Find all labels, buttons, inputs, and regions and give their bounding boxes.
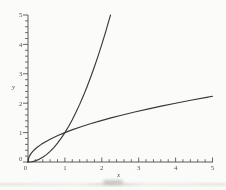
y-axis-label: y [12, 84, 15, 91]
y-tick-label: 0 [19, 155, 23, 162]
series-curve-x-squared [28, 15, 111, 162]
y-tick-label: 4 [19, 41, 23, 48]
x-tick-label: 2 [100, 164, 104, 171]
y-tick-label: 3 [19, 70, 23, 77]
x-tick-label: 3 [137, 164, 141, 171]
x-tick-label: 1 [63, 164, 66, 171]
y-tick-label: 1 [19, 129, 22, 136]
x-tick-label: 4 [174, 164, 178, 171]
scanned-figure: 012345012345 y x [0, 0, 226, 190]
plot-region: 012345012345 y x [0, 0, 226, 190]
y-tick-label: 2 [19, 100, 23, 107]
series-curve-sqrt-x [28, 96, 213, 162]
scan-artifact-smudge [103, 180, 123, 184]
chart-canvas: 012345012345 [0, 0, 226, 190]
x-axis-label: x [117, 172, 120, 179]
x-tick-label: 0 [24, 164, 28, 171]
x-tick-label: 5 [211, 164, 215, 171]
y-tick-label: 5 [19, 11, 23, 18]
